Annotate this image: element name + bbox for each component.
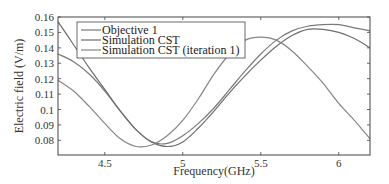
- y-tick-label: 0.09: [35, 119, 55, 131]
- y-tick-label: 0.14: [35, 42, 55, 54]
- line-chart: 0.080.090.10.110.120.130.140.150.16 4.55…: [0, 0, 389, 184]
- legend-label: Simulation CST (iteration 1): [102, 43, 239, 57]
- legend: Objective 1Simulation CSTSimulation CST …: [77, 22, 245, 58]
- y-tick-label: 0.13: [35, 57, 55, 69]
- x-tick-label: 6: [336, 157, 342, 169]
- y-axis-tick-labels: 0.080.090.10.110.120.130.140.150.16: [35, 11, 55, 146]
- y-tick-label: 0.08: [35, 134, 55, 146]
- y-tick-label: 0.11: [35, 88, 54, 100]
- x-tick-label: 4.5: [98, 157, 112, 169]
- y-tick-label: 0.16: [35, 11, 55, 23]
- y-tick-label: 0.12: [35, 73, 54, 85]
- y-tick-label: 0.15: [35, 26, 55, 38]
- x-tick-label: 5.5: [254, 157, 268, 169]
- y-tick-label: 0.1: [40, 104, 54, 116]
- x-axis-label: Frequency(GHz): [173, 164, 254, 178]
- y-axis-label: Electric field (V/m): [12, 39, 26, 134]
